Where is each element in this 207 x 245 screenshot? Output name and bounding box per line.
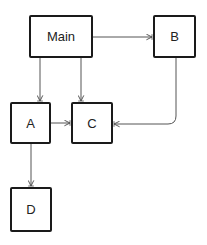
node-main[interactable]: Main (29, 15, 93, 58)
node-d[interactable]: D (10, 187, 52, 232)
node-a[interactable]: A (10, 102, 51, 144)
node-main-label: Main (47, 29, 75, 44)
node-d-label: D (26, 202, 35, 217)
node-a-label: A (26, 116, 35, 131)
node-c[interactable]: C (71, 102, 113, 144)
edge-b-c (114, 58, 176, 124)
node-b[interactable]: B (153, 15, 196, 58)
node-c-label: C (87, 116, 96, 131)
node-b-label: B (170, 29, 179, 44)
